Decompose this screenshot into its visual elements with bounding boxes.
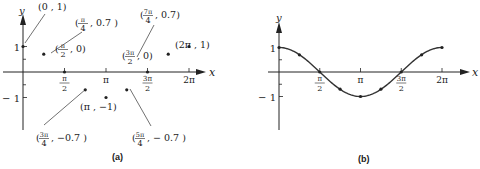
x-tick-label: 2π	[436, 75, 448, 85]
point-label-denominator: 4	[41, 139, 46, 148]
point-label: (5π4, − 0.7 )	[132, 131, 186, 148]
x-axis-label: x	[472, 66, 479, 79]
point-label-denominator: 4	[137, 139, 142, 148]
y-tick-label: 1	[270, 43, 276, 54]
point-label-numerator: 7π	[144, 8, 153, 16]
point-label-close: , −0.7 )	[51, 132, 87, 143]
data-point	[125, 88, 128, 91]
data-point	[420, 53, 423, 56]
data-point	[104, 96, 107, 99]
leader-line	[25, 14, 45, 43]
point-label: (π , −1)	[80, 101, 117, 112]
leader-line	[130, 89, 151, 126]
point-label-numerator: π	[61, 42, 66, 50]
x-axis-arrow-icon	[196, 69, 206, 75]
panel-b-caption: (b)	[358, 154, 370, 164]
data-point	[146, 70, 149, 73]
data-point	[318, 70, 321, 73]
x-tick-label: 2π	[183, 75, 195, 85]
point-label: (π4, 0.7 )	[75, 16, 118, 33]
point-label-denominator: 2	[127, 57, 132, 66]
x-axis-label: x	[209, 66, 216, 79]
y-axis-arrow-icon	[276, 22, 282, 33]
x-tick-label-denominator: 2	[62, 84, 67, 93]
data-point	[440, 46, 443, 49]
point-label: (π2, 0)	[55, 42, 86, 59]
panel-a: x y π2π3π22π1− 1 (0 , 1)(π4, 0.7 )(π2, 0…	[2, 1, 216, 162]
point-label-close: , 0.7)	[155, 9, 180, 20]
point-label-numerator: 5π	[136, 131, 145, 139]
data-point	[298, 53, 301, 56]
x-tick-label: π	[358, 75, 364, 85]
x-tick-label-numerator: 3π	[397, 75, 406, 83]
x-tick-label-numerator: π	[317, 75, 322, 83]
point-label-denominator: 4	[145, 16, 150, 25]
point-label: (0 , 1)	[38, 1, 67, 12]
point-label-close: , 0.7 )	[90, 17, 118, 28]
point-label-numerator: 3π	[126, 49, 135, 57]
point-label-close: , 0)	[137, 50, 153, 61]
point-label-group: (0 , 1)(π4, 0.7 )(π2, 0)(3π4, −0.7 )(π ,…	[25, 1, 210, 148]
y-axis-label: y	[18, 5, 25, 16]
data-point	[167, 53, 170, 56]
x-tick-label-numerator: π	[62, 75, 67, 83]
x-tick-label-denominator: 2	[317, 84, 322, 93]
data-point	[379, 88, 382, 91]
data-point	[42, 53, 45, 56]
data-point	[63, 70, 66, 73]
point-label-close: , − 0.7 )	[147, 132, 186, 143]
panel-a-caption: (a)	[112, 152, 123, 162]
y-tick-label: 1	[14, 42, 20, 53]
x-tick-label-denominator: 2	[145, 84, 150, 93]
point-label: (2π , 1)	[175, 39, 210, 50]
data-point	[21, 45, 24, 48]
data-point	[277, 46, 280, 49]
x-tick-label-denominator: 2	[399, 84, 404, 93]
point-label-denominator: 2	[60, 50, 65, 59]
x-tick-label: π	[103, 75, 109, 85]
point-label-open: (	[55, 43, 59, 54]
point-label: (3π2, 0)	[122, 49, 153, 66]
x-axis-arrow-icon	[460, 69, 470, 75]
x-tick-label-numerator: 3π	[143, 75, 152, 83]
y-axis-label: y	[275, 12, 282, 23]
point-label-close: , 0)	[70, 43, 86, 54]
point-label-denominator: 4	[80, 24, 85, 33]
point-label-numerator: π	[81, 16, 86, 24]
point-label: (7π4, 0.7)	[140, 8, 180, 25]
point-label: (3π4, −0.7 )	[36, 131, 87, 148]
figure: x y π2π3π22π1− 1 (0 , 1)(π4, 0.7 )(π2, 0…	[0, 0, 480, 169]
panel-b: x y π2π3π22π1− 1 (b)	[258, 12, 479, 164]
y-tick-label: − 1	[258, 92, 276, 103]
point-label-open: (	[75, 17, 79, 28]
data-point	[359, 95, 362, 98]
y-tick-label: − 1	[2, 93, 20, 104]
point-label-numerator: 3π	[40, 131, 49, 139]
data-point	[400, 70, 403, 73]
data-point	[339, 88, 342, 91]
